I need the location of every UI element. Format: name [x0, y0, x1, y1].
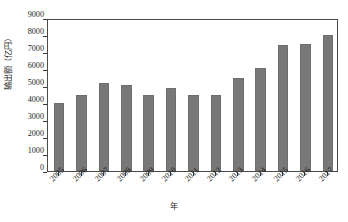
y-axis-tick-mark	[43, 155, 47, 156]
bar	[323, 35, 334, 172]
y-axis-tick-label: 0	[12, 163, 44, 172]
bar	[255, 68, 266, 171]
y-axis-tick-label: 7000	[12, 44, 44, 53]
y-axis-tick-label: 4000	[12, 95, 44, 104]
bar	[300, 44, 311, 171]
y-axis-tick-mark	[43, 19, 47, 20]
y-axis-tick-mark	[43, 138, 47, 139]
bar	[233, 78, 244, 171]
bar-chart-figure: 输出额（亿円） 01000200030004000500060007000800…	[0, 0, 348, 222]
y-axis-tick-label: 2000	[12, 129, 44, 138]
y-axis-tick-label-group: 0100020003000400050006000700080009000	[12, 14, 44, 174]
y-axis-tick-mark	[43, 53, 47, 54]
plot-area	[47, 19, 338, 172]
y-axis-tick-mark	[43, 104, 47, 105]
y-axis-tick-label: 8000	[12, 27, 44, 36]
y-axis-tick-mark	[43, 36, 47, 37]
y-axis-tick-mark	[43, 70, 47, 71]
y-axis-tick-label: 1000	[12, 146, 44, 155]
y-axis-tick-mark	[43, 87, 47, 88]
y-axis-tick-label: 5000	[12, 78, 44, 87]
y-axis-tick-label: 6000	[12, 61, 44, 70]
y-axis-tick-label: 9000	[12, 10, 44, 19]
y-axis-tick-mark	[43, 172, 47, 173]
bar	[278, 45, 289, 171]
x-axis-title: 年	[0, 201, 348, 212]
y-axis-tick-mark	[43, 121, 47, 122]
y-axis-tick-label: 3000	[12, 112, 44, 121]
